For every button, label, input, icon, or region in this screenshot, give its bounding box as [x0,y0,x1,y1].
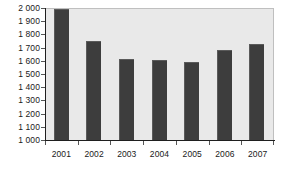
plot-area [45,8,274,140]
x-axis-tick-mark [45,141,46,145]
y-axis-tick-label: 1 400 [0,82,40,92]
y-axis-tick-label: 1 300 [0,95,40,105]
bar-2002[interactable] [86,41,101,140]
y-axis-tick-label: 1 100 [0,122,40,132]
y-axis-tick-label: 1 000 [0,135,40,145]
bar-2005[interactable] [184,62,199,140]
y-axis-tick-label: 1 700 [0,43,40,53]
bars-layer [45,9,273,140]
y-axis-tick-labels: 2 0001 9001 8001 7001 6001 5001 4001 300… [0,8,44,140]
y-axis-tick-label: 2 000 [0,3,40,13]
y-axis-tick-label: 1 500 [0,69,40,79]
x-axis-tick-mark [273,141,274,145]
y-axis-tick-label: 1 800 [0,29,40,39]
bar-slot [208,9,241,140]
x-axis-tick-marks [45,141,274,146]
y-axis-tick-label: 1 900 [0,16,40,26]
x-axis-tick-label: 2006 [209,147,242,161]
x-axis-tick-label: 2005 [176,147,209,161]
bar-slot [78,9,111,140]
bar-2003[interactable] [119,59,134,140]
x-axis-tick-label: 2001 [45,147,78,161]
x-axis-tick-mark [209,141,210,145]
bar-slot [175,9,208,140]
bar-chart: 2 0001 9001 8001 7001 6001 5001 4001 300… [0,0,281,176]
x-axis-tick-label: 2003 [110,147,143,161]
bar-slot [143,9,176,140]
y-axis-line [45,8,46,141]
x-axis-tick-mark [241,141,242,145]
bar-2004[interactable] [152,60,167,140]
y-axis-tick-label: 1 200 [0,109,40,119]
x-axis-tick-label: 2002 [78,147,111,161]
x-axis-tick-mark [143,141,144,145]
x-axis-tick-mark [176,141,177,145]
x-axis-tick-labels: 2001200220032004200520062007 [45,147,274,161]
bar-slot [240,9,273,140]
bar-2006[interactable] [217,50,232,140]
bar-2007[interactable] [249,44,264,140]
x-axis-tick-label: 2007 [241,147,274,161]
x-axis-tick-mark [110,141,111,145]
bar-slot [45,9,78,140]
x-axis-tick-mark [78,141,79,145]
bar-slot [110,9,143,140]
y-axis-tick-label: 1 600 [0,56,40,66]
x-axis-tick-label: 2004 [143,147,176,161]
bar-2001[interactable] [54,9,69,140]
